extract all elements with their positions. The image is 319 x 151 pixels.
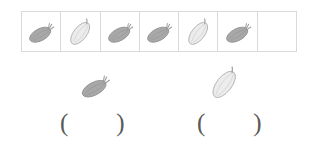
open-paren: ( [60,108,68,138]
open-paren: ( [197,108,205,138]
close-paren: ) [253,108,261,138]
squash-icon [142,15,176,49]
answer-row: ( ) ( ) [0,108,319,144]
table-cell-5 [179,12,218,51]
table-cell-3 [101,12,140,51]
answer-group-1: ( ) [60,108,125,138]
table-cell-6 [218,12,257,51]
table-cell-4 [140,12,179,51]
table-cell-1 [22,12,61,51]
vegetable-count-table [21,11,297,52]
squash-icon [24,15,58,49]
prompt-row [0,62,319,107]
squash-icon [103,15,137,49]
close-paren: ) [116,108,124,138]
melon-icon [63,15,97,49]
melon-icon [203,62,245,104]
melon-icon [181,15,215,49]
table-cell-7-empty [258,12,296,51]
table-cell-2 [61,12,100,51]
squash-icon [221,15,255,49]
squash-icon [74,65,116,107]
answer-group-2: ( ) [197,108,262,138]
